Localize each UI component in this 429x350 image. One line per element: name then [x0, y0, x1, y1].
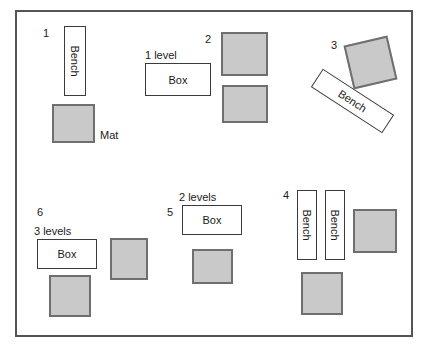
- station-6-mat-right: [110, 238, 148, 280]
- station-6-levels-label: 3 levels: [34, 226, 71, 237]
- station-6-box-label: Box: [38, 240, 96, 268]
- top-box-levels-label: 1 level: [145, 50, 177, 61]
- station-5-levels-label: 2 levels: [179, 192, 216, 203]
- top-box: Box: [145, 63, 211, 96]
- station-4-number: 4: [283, 190, 289, 201]
- station-2-number: 2: [205, 34, 211, 45]
- station-6-mat-lower: [49, 275, 91, 317]
- station-3-number: 3: [331, 40, 337, 51]
- station-5-box: Box: [182, 205, 242, 235]
- station-6-box: Box: [37, 239, 97, 269]
- station-5-box-label: Box: [183, 206, 241, 234]
- station-1-bench: Bench: [64, 26, 86, 96]
- station-5-number: 5: [167, 207, 173, 218]
- diagram-canvas: 1 Bench Mat 1 level Box 2 3 Bench 4 Benc…: [0, 0, 429, 350]
- station-6-number: 6: [37, 207, 43, 218]
- top-box-label: Box: [146, 64, 210, 95]
- station-1-mat: [52, 104, 95, 143]
- station-1-bench-label: Bench: [41, 51, 109, 71]
- station-1-mat-label: Mat: [100, 130, 118, 141]
- station-5-mat: [192, 249, 233, 284]
- station-1-number: 1: [43, 28, 49, 39]
- station-2-mat-lower: [222, 85, 268, 123]
- station-4-bench-right: Bench: [325, 190, 345, 260]
- station-4-mat-right: [353, 209, 397, 253]
- station-2-mat-upper: [221, 32, 268, 76]
- station-4-mat-lower: [301, 272, 343, 315]
